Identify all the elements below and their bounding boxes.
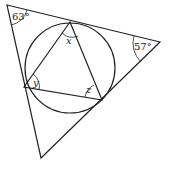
angle-label-63: 63° <box>12 11 30 22</box>
angle-label-x: x <box>66 35 72 46</box>
geometry-diagram: 63° 57° x y z <box>0 0 170 169</box>
angle-label-z: z <box>85 84 92 95</box>
outer-triangle <box>7 5 160 158</box>
angle-label-y: y <box>32 77 39 88</box>
angle-label-57: 57° <box>134 41 152 52</box>
